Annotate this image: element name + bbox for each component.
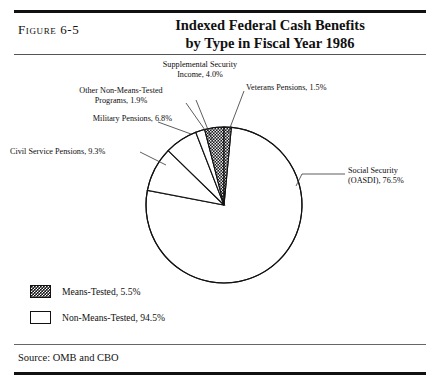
callout-military-pensions: Military Pensions, 6.8% [44, 114, 172, 124]
callout-ssi-line-2: Income, 4.0% [144, 70, 256, 80]
callout-other-non-means-tested: Other Non-Means-Tested Programs, 1.9% [56, 86, 186, 106]
top-rule [14, 10, 426, 13]
legend-item-non-means-tested: Non-Means-Tested, 94.5% [30, 307, 290, 328]
callout-ssi-line-1: Supplemental Security [144, 60, 256, 70]
callout-civil-label: Civil Service Pensions, 9.3% [10, 147, 146, 157]
callout-military-label: Military Pensions, 6.8% [44, 114, 172, 124]
callout-social-security: Social Security (OASDI), 76.5% [348, 166, 434, 186]
pie-chart-area: Supplemental Security Income, 4.0% Other… [0, 56, 440, 286]
legend-swatch-non-means-tested-icon [30, 311, 51, 324]
figure-title-line-1: Indexed Federal Cash Benefits [120, 16, 420, 34]
figure-title: Indexed Federal Cash Benefits by Type in… [120, 16, 420, 52]
callout-veterans-pensions: Veterans Pensions, 1.5% [246, 83, 366, 93]
leader-line-veterans [228, 91, 244, 133]
callout-social-line-1: Social Security [348, 166, 434, 176]
figure-container: Figure 6-5 Indexed Federal Cash Benefits… [0, 0, 440, 381]
source-note: Source: OMB and CBO [18, 352, 119, 363]
legend-label-non-means-tested: Non-Means-Tested, 94.5% [62, 312, 165, 323]
callout-other-line-2: Programs, 1.9% [56, 96, 186, 106]
source-divider-rule [14, 344, 426, 345]
legend-swatch-means-tested-icon [30, 285, 51, 298]
figure-number-label: Figure 6-5 [18, 22, 79, 38]
callout-social-line-2: (OASDI), 76.5% [348, 176, 434, 186]
callout-supplemental-security-income: Supplemental Security Income, 4.0% [144, 60, 256, 80]
leader-line-other [186, 103, 205, 130]
callout-veterans-label: Veterans Pensions, 1.5% [246, 83, 366, 93]
header-divider-rule [14, 54, 426, 55]
figure-title-line-2: by Type in Fiscal Year 1986 [120, 34, 420, 52]
chart-legend: Means-Tested, 5.5% Non-Means-Tested, 94.… [30, 281, 290, 333]
callout-civil-service-pensions: Civil Service Pensions, 9.3% [10, 147, 146, 157]
legend-item-means-tested: Means-Tested, 5.5% [30, 281, 290, 302]
callout-other-line-1: Other Non-Means-Tested [56, 86, 186, 96]
bottom-rule [14, 372, 426, 375]
legend-label-means-tested: Means-Tested, 5.5% [62, 286, 140, 297]
